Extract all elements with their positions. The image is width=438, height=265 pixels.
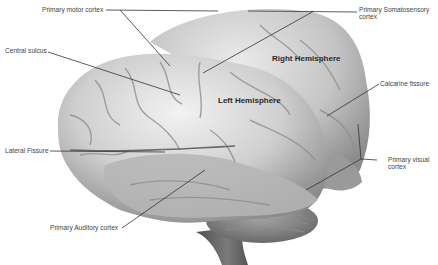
- label-calcarine-fissure: Calcarine fissure: [380, 80, 429, 87]
- left-hemisphere-label: Left Hemisphere: [218, 96, 281, 105]
- label-primary-visual-line1: Primary visual: [388, 156, 429, 163]
- brain-diagram: Right Hemisphere Left Hemisphere Primary…: [0, 0, 438, 265]
- label-primary-auditory-cortex: Primary Auditory cortex: [50, 224, 118, 231]
- label-primary-somatosensory-line2: cortex: [359, 13, 429, 20]
- label-primary-somatosensory-cortex: Primary Somatosensory cortex: [359, 6, 429, 20]
- label-primary-visual-cortex: Primary visual cortex: [388, 156, 429, 170]
- label-primary-visual-line2: cortex: [388, 163, 429, 170]
- label-primary-motor-cortex: Primary motor cortex: [42, 6, 103, 13]
- label-lateral-fissure: Lateral Fissure: [5, 147, 49, 154]
- right-hemisphere-label: Right Hemisphere: [272, 54, 340, 63]
- label-central-sulcus: Central sulcus: [5, 47, 47, 54]
- label-primary-somatosensory-line1: Primary Somatosensory: [359, 6, 429, 13]
